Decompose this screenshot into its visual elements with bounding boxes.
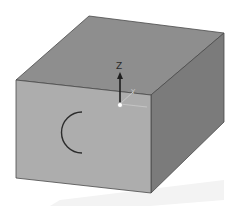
origin-point-icon[interactable] [118, 103, 123, 108]
y-axis-label: Y [130, 88, 136, 96]
box-front-face[interactable] [16, 80, 151, 193]
z-axis-label: Z [116, 61, 122, 71]
graphics-viewport[interactable]: Y Z [0, 0, 239, 216]
model-view[interactable]: Y Z [0, 0, 239, 216]
